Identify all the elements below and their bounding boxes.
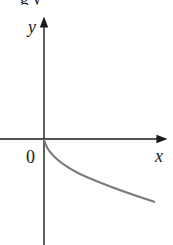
origin-label: 0: [26, 148, 35, 166]
graph-figure: [0, 0, 173, 245]
x-axis-label: x: [155, 147, 163, 165]
y-axis-label: y: [28, 18, 36, 36]
function-curve: [44, 139, 155, 202]
